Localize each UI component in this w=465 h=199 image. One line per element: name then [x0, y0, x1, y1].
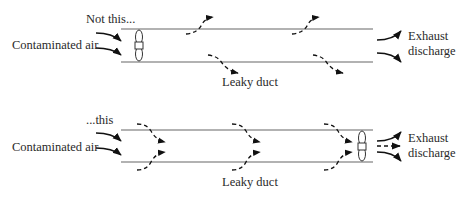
- bottom-fan-icon: [358, 131, 366, 161]
- bottom-inlet-arrows: [96, 133, 121, 155]
- top-duct: [121, 29, 373, 62]
- bottom-caption: ...this: [86, 113, 113, 127]
- bottom-inlet-label: Contaminated air: [12, 140, 98, 154]
- bottom-outlet-arrows: [377, 132, 401, 161]
- top-outlet-arrows: [377, 31, 401, 62]
- bottom-leak-arrows: [137, 124, 352, 170]
- bottom-outlet-label-line2: discharge: [408, 146, 456, 160]
- top-outlet-label-line1: Exhaust: [408, 29, 448, 43]
- top-inlet-label: Contaminated air: [12, 38, 98, 52]
- top-duct-label: Leaky duct: [222, 75, 278, 89]
- top-leak-arrows: [186, 17, 343, 73]
- bottom-duct-label: Leaky duct: [222, 175, 278, 189]
- duct-diagram: [0, 0, 465, 199]
- top-fan-icon: [135, 30, 143, 61]
- bottom-duct: [121, 130, 373, 162]
- top-inlet-arrows: [96, 33, 121, 55]
- bottom-outlet-label-line1: Exhaust: [408, 131, 448, 145]
- top-caption: Not this...: [86, 12, 135, 26]
- top-outlet-label-line2: discharge: [408, 44, 456, 58]
